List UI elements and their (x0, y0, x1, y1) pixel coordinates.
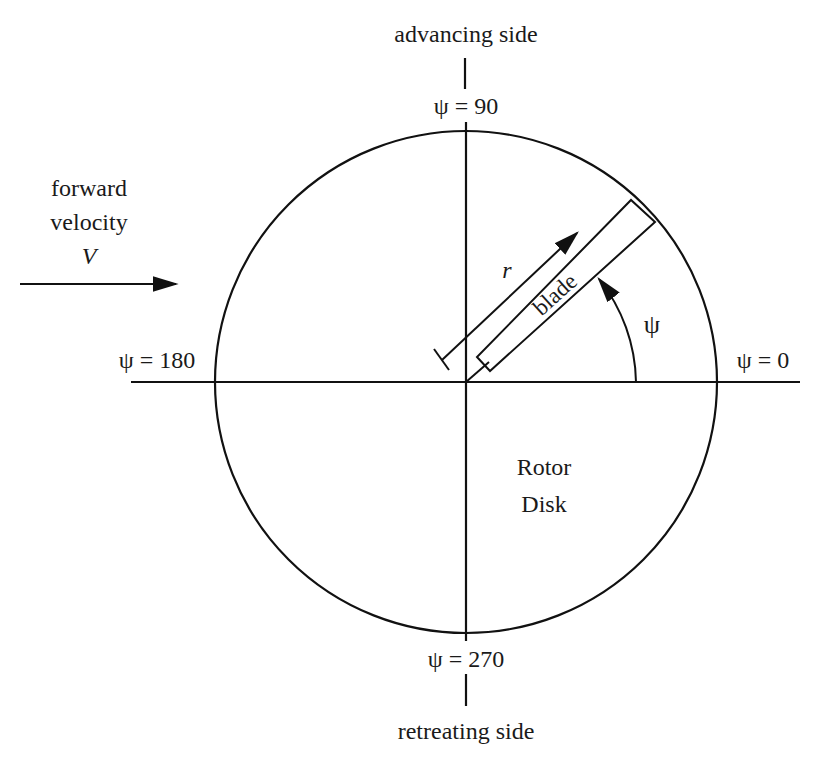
psi-0-label: ψ = 0 (737, 347, 790, 373)
psi-180-label: ψ = 180 (119, 347, 196, 373)
psi-angle-arc-arrow (599, 279, 636, 382)
rotor-label: Rotor (517, 454, 572, 480)
velocity-label: velocity (50, 209, 127, 235)
advancing-side-label: advancing side (394, 21, 537, 47)
forward-label: forward (51, 175, 127, 201)
psi-angle-label: ψ (644, 310, 660, 339)
retreating-side-label: retreating side (398, 718, 535, 744)
radius-label: r (502, 257, 512, 283)
rotor-disk-diagram: advancing side ψ = 90 forward velocity V… (0, 0, 815, 758)
psi-270-label: ψ = 270 (428, 646, 505, 672)
psi-90-label: ψ = 90 (434, 93, 499, 119)
disk-label: Disk (521, 491, 566, 517)
velocity-symbol-label: V (82, 243, 99, 269)
